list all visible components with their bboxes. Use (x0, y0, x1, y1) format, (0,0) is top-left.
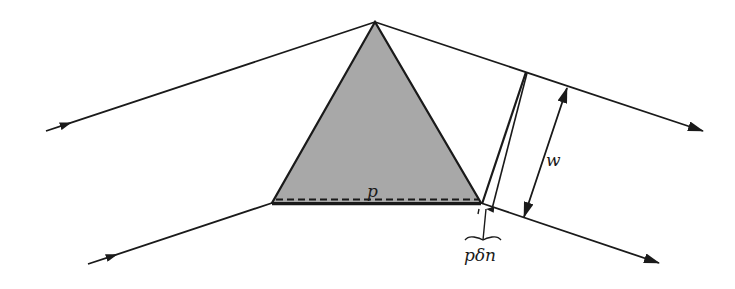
label-p-delta-n: pδn (464, 245, 496, 265)
prism-triangle (272, 22, 481, 203)
tick-mark (478, 209, 479, 214)
prism-diagram: p w pδn (0, 0, 735, 289)
label-p: p (367, 181, 378, 201)
wavefront-line-1 (482, 72, 526, 204)
wavefront-line-2 (492, 73, 527, 209)
ray-emergent-lower (481, 203, 659, 263)
path-difference-pointer (483, 209, 486, 240)
ray-incident-lower (88, 203, 272, 264)
label-w: w (546, 150, 561, 170)
